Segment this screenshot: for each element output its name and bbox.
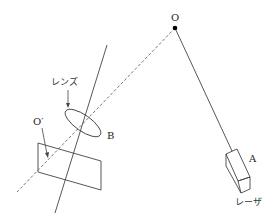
optics-diagram: O O′ B A レンズ レーザ [0, 0, 276, 224]
label-point-o-prime: O′ [33, 116, 44, 127]
label-laser: レーザ [235, 197, 262, 207]
laser-beam [175, 28, 232, 151]
label-point-a: A [248, 153, 257, 164]
point-o-dot [173, 26, 178, 31]
label-point-b: B [107, 130, 114, 141]
dashed-ray [17, 28, 175, 192]
o-prime-pointer-arrow [42, 128, 49, 158]
laser-box [226, 149, 250, 193]
label-point-o: O [171, 12, 179, 23]
lens-pointer-arrow [66, 90, 70, 108]
label-lens: レンズ [51, 76, 78, 87]
